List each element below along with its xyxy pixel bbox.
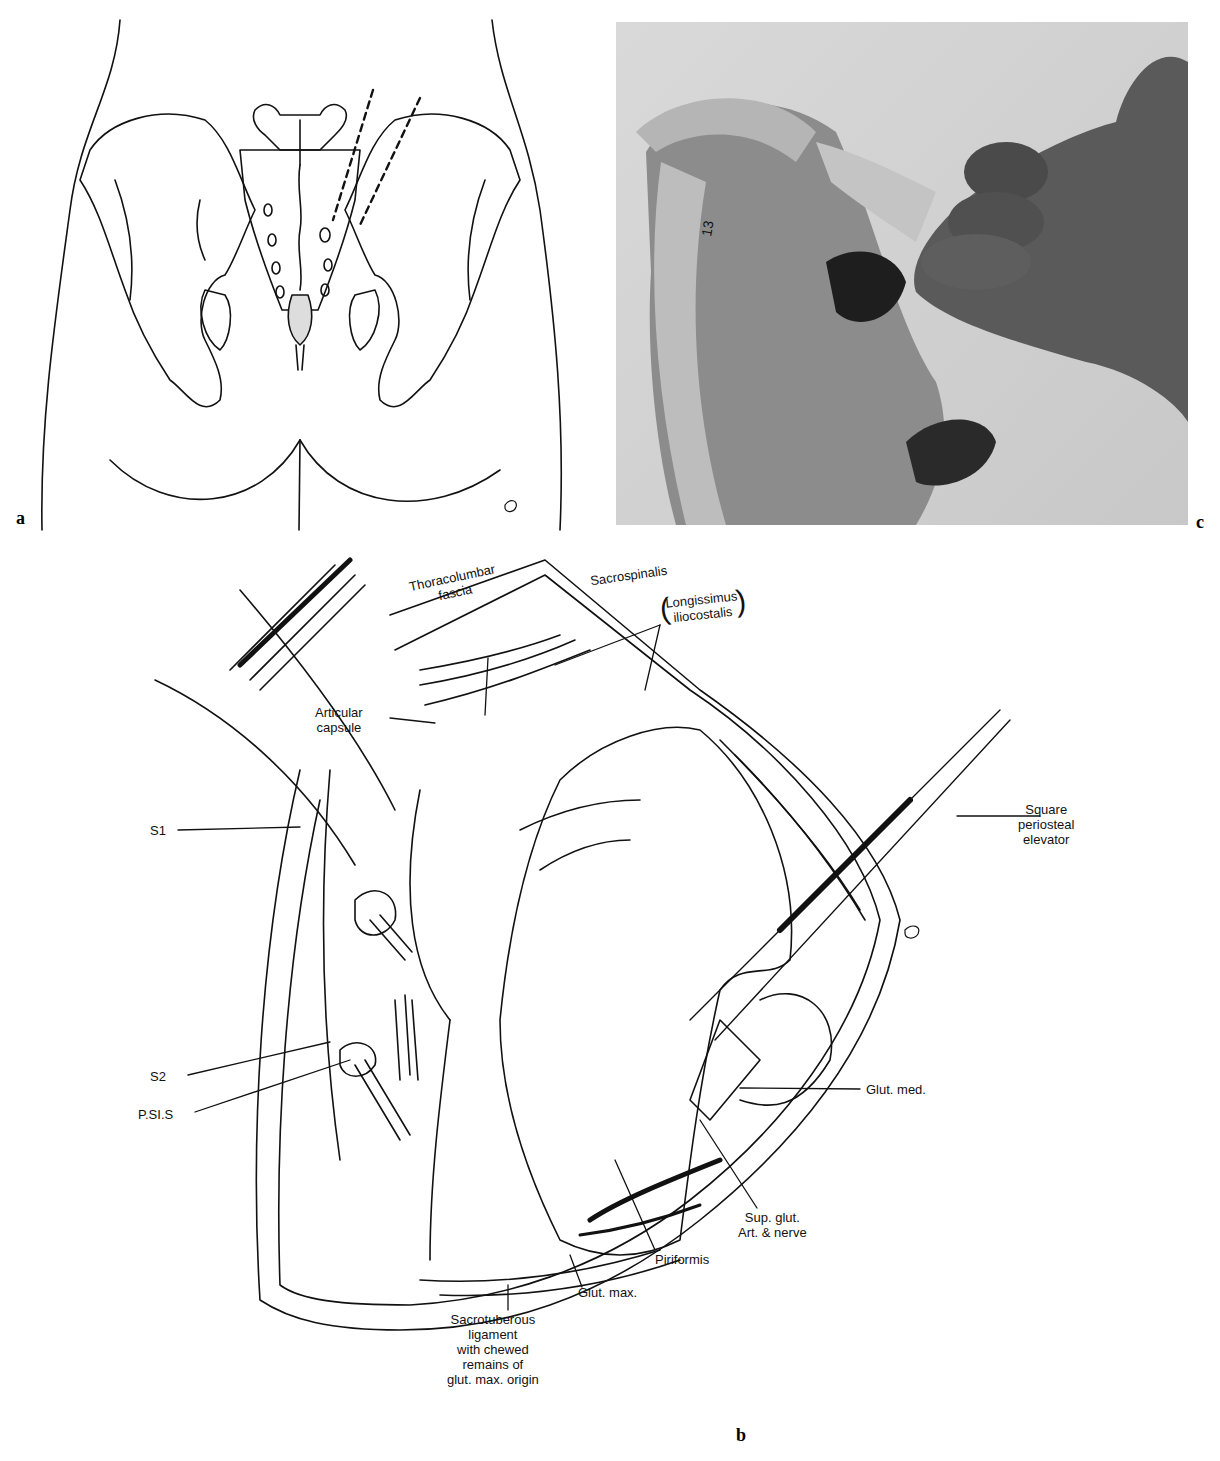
leader-thoracolumbar bbox=[485, 658, 488, 715]
label-glut-med: Glut. med. bbox=[866, 1082, 926, 1097]
pelvis-posterior-illustration bbox=[0, 0, 600, 540]
photo-marking: 13 bbox=[698, 219, 716, 237]
sacroiliac-exposure-illustration bbox=[0, 540, 1220, 1461]
label-sacrotuberous-ligament: Sacrotuberous ligament with chewed remai… bbox=[447, 1312, 539, 1387]
label-glut-max: Glut. max. bbox=[578, 1285, 637, 1300]
label-square-periosteal-elevator: Square periosteal elevator bbox=[1018, 802, 1074, 847]
panel-c-photograph: 13 bbox=[616, 22, 1188, 525]
panel-a-pelvis-drawing: a bbox=[0, 0, 600, 540]
panel-letter-c: c bbox=[1196, 512, 1204, 533]
label-s1: S1 bbox=[150, 823, 166, 838]
panel-letter-b: b bbox=[736, 1425, 746, 1446]
label-sup-glut-art-nerve: Sup. glut. Art. & nerve bbox=[738, 1210, 807, 1240]
pelvis-model-photo: 13 bbox=[616, 22, 1188, 525]
panel-letter-a: a bbox=[16, 508, 25, 529]
label-s2: S2 bbox=[150, 1069, 166, 1084]
label-articular-capsule: Articular capsule bbox=[315, 705, 363, 735]
label-piriformis: Piriformis bbox=[655, 1252, 709, 1267]
panel-b-surgical-exposure: Thoracolumbar fascia Sacrospinalis ( Lon… bbox=[0, 540, 1220, 1461]
label-psis: P.SI.S bbox=[138, 1107, 173, 1122]
